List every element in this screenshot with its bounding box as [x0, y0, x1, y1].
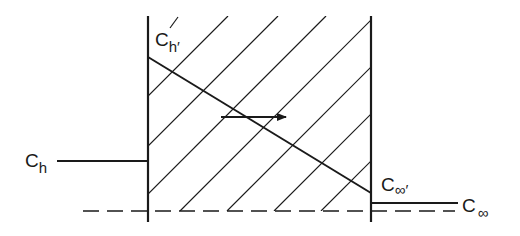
hatched-region [148, 16, 375, 211]
label-ch: Ch [25, 150, 47, 176]
concentration-diagram: Ch Ch′ C∞′ C∞ [0, 0, 520, 236]
concentration-profile-line [148, 57, 371, 193]
label-cinf-prime: C∞′ [381, 174, 408, 198]
label-ch-prime: Ch′ [155, 29, 180, 55]
label-cinf: C∞ [462, 195, 489, 221]
hatch-stub [170, 17, 178, 28]
